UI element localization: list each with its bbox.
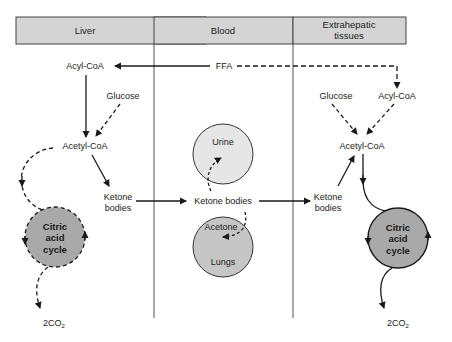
extra-cycle-text-2: acid bbox=[388, 233, 407, 244]
liver-co2: 2CO2 bbox=[43, 318, 66, 329]
liver-acyl-coa: Acyl-CoA bbox=[66, 61, 104, 71]
extra-acyl-coa: Acyl-CoA bbox=[378, 91, 416, 101]
urine-circle bbox=[193, 124, 253, 184]
liver-cycle-text-1: Citric bbox=[43, 221, 67, 232]
extra-co2: 2CO2 bbox=[387, 318, 410, 329]
extra-cycle-text-3: cycle bbox=[386, 245, 410, 256]
extrahepatic-header-label-1: Extrahepatic bbox=[323, 19, 376, 30]
blood-ffa: FFA bbox=[216, 61, 233, 71]
acetone-label: Acetone bbox=[204, 222, 237, 232]
urine-label: Urine bbox=[212, 137, 234, 147]
blood-ketone-bodies: Ketone bodies bbox=[194, 196, 252, 206]
extrahepatic-header-label-2: tissues bbox=[334, 30, 364, 41]
liver-ketone-2: bodies bbox=[105, 203, 132, 213]
arrow-glucose-to-acetylcoa-extra bbox=[332, 104, 357, 134]
arrow-cycle-to-co2-extra bbox=[381, 268, 392, 308]
liver-acetyl-coa: Acetyl-CoA bbox=[62, 141, 107, 151]
arrow-acetylcoa-to-cycle-extra bbox=[363, 154, 390, 212]
extra-glucose: Glucose bbox=[319, 91, 352, 101]
liver-cycle-text-3: cycle bbox=[43, 244, 67, 255]
arrow-ketone-to-acetylcoa-extra bbox=[338, 156, 354, 186]
arrow-acylcoa-to-acetylcoa-extra bbox=[367, 104, 394, 134]
liver-ketone-1: Ketone bbox=[104, 192, 133, 202]
extra-ketone-2: bodies bbox=[315, 203, 342, 213]
extra-ketone-1: Ketone bbox=[314, 192, 343, 202]
liver-cycle-text-2: acid bbox=[45, 232, 64, 243]
arrow-cycle-to-co2-liver bbox=[37, 267, 48, 308]
ketone-metabolism-diagram: Liver Blood Extrahepatic tissues Acyl-Co… bbox=[0, 0, 452, 342]
extra-cycle-text-1: Citric bbox=[386, 222, 410, 233]
blood-header-label: Blood bbox=[211, 25, 235, 36]
extra-acetyl-coa: Acetyl-CoA bbox=[339, 141, 384, 151]
arrow-ffa-to-extrahepatic bbox=[237, 66, 397, 88]
liver-glucose: Glucose bbox=[106, 91, 139, 101]
arrow-glucose-to-acetylcoa-liver bbox=[96, 104, 120, 136]
arrow-acetylcoa-to-ketone bbox=[92, 155, 109, 186]
lungs-label: Lungs bbox=[211, 257, 236, 267]
liver-header-label: Liver bbox=[75, 25, 96, 36]
arrow-acetylcoa-to-cycle-liver bbox=[21, 148, 53, 213]
